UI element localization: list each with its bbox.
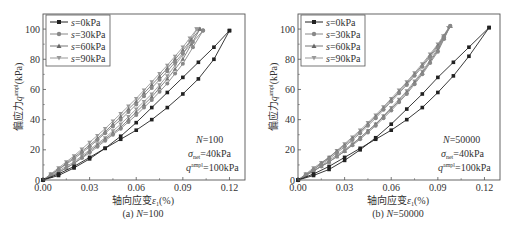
- y-tick-label: 20: [30, 144, 40, 155]
- annotation-n: N=50000: [442, 134, 480, 145]
- y-tick-label: 60: [285, 84, 295, 95]
- circle-marker-icon: [158, 90, 162, 94]
- x-tick-label: 0.03: [336, 182, 354, 193]
- circle-marker-icon: [165, 69, 169, 73]
- circle-marker-icon: [150, 98, 154, 102]
- svg-text:s=30kPa: s=30kPa: [326, 29, 361, 40]
- annotation-q: qampl=100kPa: [186, 162, 239, 173]
- chart-a: 0.000.030.060.090.12020406080100 s=0kPa …: [0, 0, 257, 232]
- y-axis-title: 偏应力qampl(kPa): [267, 63, 280, 132]
- svg-text:s=90kPa: s=90kPa: [71, 53, 106, 64]
- annotation-sigma: σnet=40kPa: [188, 148, 231, 160]
- square-marker-icon: [467, 45, 471, 49]
- square-marker-icon: [312, 20, 316, 24]
- circle-marker-icon: [142, 94, 146, 98]
- square-marker-icon: [134, 121, 138, 125]
- circle-marker-icon: [126, 120, 130, 124]
- circle-marker-icon: [366, 124, 370, 128]
- svg-text:s=60kPa: s=60kPa: [71, 41, 106, 52]
- x-tick-label: 0.09: [174, 182, 192, 193]
- square-marker-icon: [197, 77, 201, 81]
- circle-marker-icon: [57, 167, 61, 171]
- circle-marker-icon: [397, 91, 401, 95]
- circle-marker-icon: [134, 103, 138, 107]
- circle-marker-icon: [119, 127, 123, 131]
- circle-marker-icon: [381, 116, 385, 120]
- x-tick-label: 0.09: [429, 182, 447, 193]
- circle-marker-icon: [374, 124, 378, 128]
- circle-marker-icon: [126, 110, 130, 114]
- circle-marker-icon: [57, 32, 61, 36]
- circle-marker-icon: [111, 133, 115, 137]
- circle-marker-icon: [350, 143, 354, 147]
- svg-text:s=30kPa: s=30kPa: [71, 29, 106, 40]
- circle-marker-icon: [312, 167, 316, 171]
- square-marker-icon: [467, 54, 471, 58]
- circle-marker-icon: [181, 51, 185, 55]
- y-tick-label: 0: [290, 175, 295, 186]
- circle-marker-icon: [80, 151, 84, 155]
- circle-marker-icon: [413, 82, 417, 86]
- svg-text:s=90kPa: s=90kPa: [326, 53, 361, 64]
- square-marker-icon: [389, 128, 393, 132]
- square-marker-icon: [487, 26, 491, 30]
- circle-marker-icon: [173, 60, 177, 64]
- square-marker-icon: [119, 134, 123, 138]
- circle-marker-icon: [142, 106, 146, 110]
- circle-marker-icon: [389, 109, 393, 113]
- circle-marker-icon: [165, 81, 169, 85]
- circle-marker-icon: [335, 151, 339, 155]
- circle-marker-icon: [343, 145, 347, 149]
- y-tick-label: 80: [285, 54, 295, 65]
- square-marker-icon: [228, 29, 232, 33]
- annotation-block: N=50000 σnet=40kPa qampl=100kPa: [438, 134, 491, 173]
- circle-marker-icon: [327, 157, 331, 161]
- square-marker-icon: [103, 147, 107, 151]
- square-marker-icon: [150, 118, 154, 122]
- square-marker-icon: [405, 118, 409, 122]
- legend: s=0kPa s=30kPa s=60kPa s=90kPa: [46, 15, 110, 66]
- square-marker-icon: [166, 106, 170, 110]
- y-tick-label: 40: [285, 114, 295, 125]
- circle-marker-icon: [374, 116, 378, 120]
- y-axis-title: 偏应力qampl(kPa): [12, 63, 25, 132]
- svg-text:s=0kPa: s=0kPa: [326, 17, 356, 28]
- circle-marker-icon: [191, 45, 195, 49]
- circle-marker-icon: [343, 149, 347, 153]
- square-marker-icon: [57, 20, 61, 24]
- circle-marker-icon: [358, 137, 362, 141]
- square-marker-icon: [374, 136, 378, 140]
- circle-marker-icon: [173, 72, 177, 76]
- x-tick-label: 0.12: [476, 182, 494, 193]
- square-marker-icon: [327, 168, 331, 172]
- y-tick-label: 40: [30, 114, 40, 125]
- panel-a: 0.000.030.060.090.12020406080100 s=0kPa …: [0, 0, 257, 232]
- circle-marker-icon: [413, 74, 417, 78]
- legend: s=0kPa s=30kPa s=60kPa s=90kPa: [301, 15, 365, 66]
- circle-marker-icon: [420, 65, 424, 69]
- square-marker-icon: [212, 57, 216, 61]
- square-marker-icon: [150, 106, 154, 110]
- circle-marker-icon: [95, 138, 99, 142]
- annotation-q: qampl=100kPa: [438, 162, 491, 173]
- svg-text:s=0kPa: s=0kPa: [71, 17, 101, 28]
- square-marker-icon: [212, 45, 216, 49]
- circle-marker-icon: [72, 157, 76, 161]
- circle-marker-icon: [191, 40, 195, 44]
- square-marker-icon: [436, 76, 440, 80]
- circle-marker-icon: [103, 131, 107, 135]
- x-tick-label: 0.12: [221, 182, 239, 193]
- x-tick-label: 0.06: [382, 182, 400, 193]
- square-marker-icon: [389, 122, 393, 126]
- panel-b: 0.000.030.060.090.12020406080100 s=0kPa …: [255, 0, 512, 232]
- circle-marker-icon: [358, 131, 362, 135]
- circle-marker-icon: [312, 32, 316, 36]
- square-marker-icon: [452, 74, 456, 78]
- circle-marker-icon: [350, 138, 354, 142]
- square-marker-icon: [181, 92, 185, 96]
- chart-b: 0.000.030.060.090.12020406080100 s=0kPa …: [255, 0, 515, 232]
- square-marker-icon: [312, 174, 316, 178]
- circle-marker-icon: [389, 100, 393, 104]
- x-axis-title: 轴向应变ε1(%): [367, 194, 429, 207]
- square-marker-icon: [88, 157, 92, 161]
